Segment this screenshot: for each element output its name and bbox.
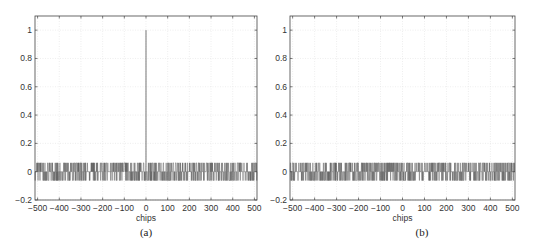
- y-tick-label: 1: [27, 25, 32, 35]
- x-tick-label: 300: [461, 203, 475, 213]
- x-tick-label: 400: [226, 203, 240, 213]
- correlation-trace: [290, 163, 515, 181]
- y-tick-label: 1: [282, 25, 287, 35]
- x-tick-label: 200: [439, 203, 453, 213]
- x-tick-label: −400: [305, 203, 324, 213]
- x-tick-label: −100: [371, 203, 390, 213]
- chart-panel-a: −500−400−300−200−1000100200300400500−0.2…: [0, 0, 266, 245]
- x-tick-label: −300: [71, 203, 90, 213]
- crosscorrelation-plot: −500−400−300−200−1000100200300400500−0.2…: [255, 0, 533, 245]
- correlation-trace: [35, 30, 257, 180]
- x-tick-label: 0: [400, 203, 405, 213]
- y-tick-label: 0: [282, 167, 287, 177]
- y-tick-label: 0.4: [20, 110, 32, 120]
- x-tick-label: 0: [144, 203, 149, 213]
- y-tick-label: 0.6: [275, 82, 287, 92]
- x-tick-label: −200: [93, 203, 112, 213]
- chart-panel-b: −500−400−300−200−1000100200300400500−0.2…: [255, 0, 533, 245]
- y-tick-label: 0.8: [275, 53, 287, 63]
- caption-a: (a): [126, 226, 166, 238]
- x-tick-label: −400: [50, 203, 69, 213]
- autocorrelation-plot: −500−400−300−200−1000100200300400500−0.2…: [0, 0, 266, 245]
- x-axis-label: chips: [136, 213, 156, 223]
- y-tick-label: 0.4: [275, 110, 287, 120]
- x-tick-label: −300: [327, 203, 346, 213]
- x-tick-label: −100: [115, 203, 134, 213]
- x-tick-label: −200: [349, 203, 368, 213]
- x-tick-label: 300: [204, 203, 218, 213]
- x-tick-label: 200: [182, 203, 196, 213]
- x-tick-label: 100: [417, 203, 431, 213]
- y-tick-label: −0.2: [15, 195, 32, 205]
- y-tick-label: −0.2: [270, 195, 287, 205]
- caption-b: (b): [402, 226, 442, 238]
- y-tick-label: 0.6: [20, 82, 32, 92]
- y-tick-label: 0.2: [20, 138, 32, 148]
- x-axis-label: chips: [393, 213, 413, 223]
- y-tick-label: 0: [27, 167, 32, 177]
- x-tick-label: 400: [483, 203, 497, 213]
- x-tick-label: 100: [161, 203, 175, 213]
- y-tick-label: 0.8: [20, 53, 32, 63]
- x-tick-label: 500: [505, 203, 519, 213]
- y-tick-label: 0.2: [275, 138, 287, 148]
